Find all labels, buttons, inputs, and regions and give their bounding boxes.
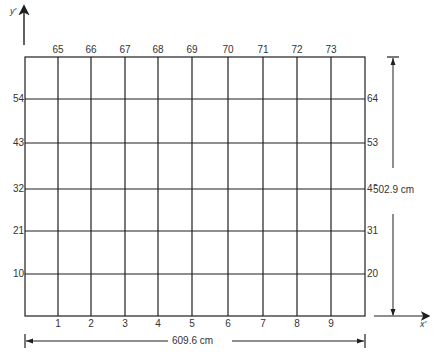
- column-top-label: 72: [291, 45, 302, 55]
- grid-diagram: [0, 0, 440, 360]
- column-top-label: 71: [257, 45, 268, 55]
- column-bottom-label: 4: [155, 319, 161, 329]
- x-axis-label: x′: [420, 319, 426, 329]
- grid-frame: [25, 57, 365, 316]
- column-bottom-label: 6: [225, 319, 231, 329]
- row-left-label: 43: [13, 138, 24, 148]
- row-left-label: 32: [13, 184, 24, 194]
- column-bottom-label: 2: [88, 319, 94, 329]
- row-left-label: 21: [13, 226, 24, 236]
- row-right-label: 53: [367, 138, 378, 148]
- row-right-label: 20: [367, 269, 378, 279]
- width-dimension-label: 609.6 cm: [172, 336, 213, 346]
- row-left-label: 10: [13, 269, 24, 279]
- row-right-label: 31: [367, 226, 378, 236]
- grid-column-lines: [58, 57, 331, 316]
- column-bottom-label: 9: [328, 319, 334, 329]
- y-axis-label: y′: [10, 6, 16, 16]
- grid-row-lines: [25, 99, 365, 274]
- column-bottom-label: 5: [189, 319, 195, 329]
- column-top-label: 69: [186, 45, 197, 55]
- column-bottom-label: 3: [122, 319, 128, 329]
- column-top-label: 67: [119, 45, 130, 55]
- row-right-label: 64: [367, 94, 378, 104]
- column-top-label: 65: [52, 45, 63, 55]
- row-left-label: 54: [13, 94, 24, 104]
- column-top-label: 66: [85, 45, 96, 55]
- column-top-label: 73: [325, 45, 336, 55]
- column-top-label: 68: [152, 45, 163, 55]
- column-bottom-label: 1: [55, 319, 61, 329]
- column-bottom-label: 7: [260, 319, 266, 329]
- column-top-label: 70: [222, 45, 233, 55]
- column-bottom-label: 8: [294, 319, 300, 329]
- height-dimension-label: 502.9 cm: [373, 185, 414, 195]
